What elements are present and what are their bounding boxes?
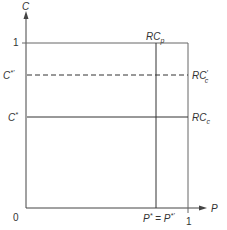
c-star-label: C* [8, 111, 18, 123]
rc-diagram: C P 0 1 1 C*' C* P* = P*' RCp RC′c RCc [0, 0, 227, 230]
x-tick-one-label: 1 [186, 216, 192, 227]
p-star-label: P* = P*' [143, 212, 175, 224]
c-star-prime-label: C*' [3, 69, 15, 81]
rc-c-prime-label: RC′c [192, 69, 209, 84]
x-axis-label: P [211, 203, 218, 214]
x-axis-arrow-icon [199, 206, 207, 211]
rc-c-label: RCc [192, 112, 210, 125]
y-axis-arrow-icon [24, 11, 29, 19]
y-tick-one-label: 1 [13, 37, 19, 48]
y-axis-label: C [22, 1, 30, 12]
origin-label: 0 [13, 212, 19, 223]
